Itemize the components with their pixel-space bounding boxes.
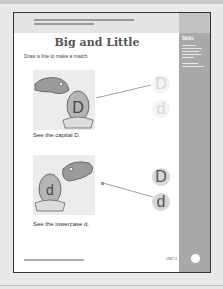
page-title: Big and Little xyxy=(14,36,180,49)
page-number-badge xyxy=(191,254,200,263)
sidebar-line xyxy=(182,51,199,52)
sidebar-line xyxy=(182,54,201,55)
note-band xyxy=(14,13,180,33)
sidebar-line xyxy=(182,48,202,49)
note-line xyxy=(34,23,94,25)
dinosaur-egg-illustration: d xyxy=(33,155,95,215)
choice-capital-d[interactable]: D xyxy=(152,75,170,93)
instruction: Draw a line to make a match. xyxy=(24,53,89,59)
skills-sidebar: Skills xyxy=(179,13,210,272)
dinosaur-icon: d xyxy=(33,155,95,215)
note-line xyxy=(34,19,134,21)
worksheet-page: Skills Big and Little Draw a line to mak… xyxy=(13,12,211,273)
dinosaur-icon: D xyxy=(33,70,95,130)
divider xyxy=(0,285,223,286)
svg-text:d: d xyxy=(46,182,54,198)
sidebar-line xyxy=(182,66,204,67)
sidebar-title: Skills xyxy=(182,36,194,41)
top-strip xyxy=(0,0,223,4)
unit-label: UNIT 4 xyxy=(166,257,177,261)
dinosaur-egg-illustration: D xyxy=(33,70,95,130)
match-line[interactable] xyxy=(96,83,156,103)
sidebar-line xyxy=(182,45,196,46)
exercise-2-caption: See the lowercase d. xyxy=(33,221,89,227)
sidebar-line xyxy=(182,57,194,58)
choice-lowercase-d[interactable]: d xyxy=(152,100,170,118)
match-line[interactable] xyxy=(103,183,158,203)
choice-capital-d[interactable]: D xyxy=(152,168,170,186)
sidebar-line xyxy=(182,63,198,64)
choice-lowercase-d[interactable]: d xyxy=(152,193,170,211)
copyright-line xyxy=(24,259,84,261)
svg-text:D: D xyxy=(72,99,84,116)
sidebar-top xyxy=(179,13,210,33)
exercise-1-caption: See the capital D. xyxy=(33,132,80,138)
